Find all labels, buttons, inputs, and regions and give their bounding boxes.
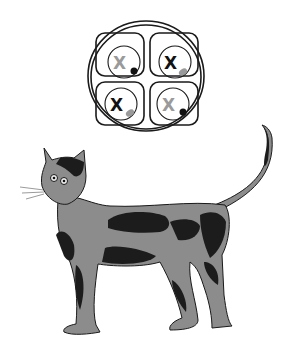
chromosome-x-bottom-right: X	[162, 95, 175, 115]
illustration: X X X X	[0, 0, 297, 353]
cat-tail	[212, 125, 272, 210]
cat-head	[41, 148, 86, 204]
chromosome-x-bottom-left: X	[110, 95, 123, 115]
calico-cat	[20, 125, 272, 334]
barr-body-bottom-right	[180, 109, 187, 116]
cell-cluster-diagram	[88, 21, 204, 131]
chromosome-x-top-right: X	[164, 53, 177, 73]
cat-whiskers	[20, 187, 44, 199]
barr-body-bottom-left	[125, 108, 136, 118]
chromosome-x-top-left: X	[113, 53, 126, 73]
barr-body-top-left	[131, 68, 138, 75]
